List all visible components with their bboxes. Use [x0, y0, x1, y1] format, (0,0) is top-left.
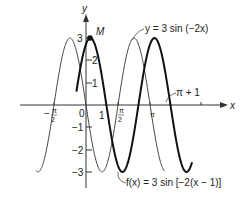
- curve1-annotation: y = 3 sin (−2x): [145, 23, 208, 34]
- y-tick-2: 2: [92, 55, 98, 66]
- x-axis-arrow-icon: [220, 102, 228, 108]
- chart-canvas: M y x 3 2 1 −1 −2 −3 − π 2 0 1 π 2 π y =…: [0, 0, 248, 209]
- pi-plus-one-leader: [166, 93, 176, 102]
- svg-text:π: π: [52, 107, 57, 114]
- curve2-annotation: f(x) = 3 sin [−2(x − 1)]: [126, 177, 222, 188]
- x-tick-0: 0: [79, 108, 85, 119]
- y-tick-minus-1: −1: [72, 122, 84, 133]
- y-tick-1: 1: [92, 78, 98, 89]
- x-axis-label: x: [229, 100, 236, 111]
- point-m-label: M: [96, 26, 105, 37]
- x-tick-1: 1: [99, 110, 105, 121]
- y-tick-minus-2: −2: [72, 145, 84, 156]
- svg-text:2: 2: [118, 116, 122, 123]
- svg-text:−: −: [44, 108, 50, 119]
- pi-plus-one-annotation: π + 1: [176, 87, 200, 98]
- x-tick-neg-pi-half: − π 2: [44, 107, 57, 123]
- y-tick-minus-3: −3: [72, 167, 84, 178]
- svg-text:2: 2: [51, 116, 55, 123]
- point-m-marker: [87, 35, 93, 41]
- x-tick-pi: π: [150, 111, 155, 118]
- y-axis-label: y: [81, 3, 88, 14]
- svg-text:π: π: [119, 107, 124, 114]
- curve2-leader: [118, 172, 126, 183]
- y-tick-3: 3: [77, 33, 83, 44]
- y-axis-arrow-icon: [83, 14, 89, 22]
- x-tick-pi-half: π 2: [118, 107, 124, 123]
